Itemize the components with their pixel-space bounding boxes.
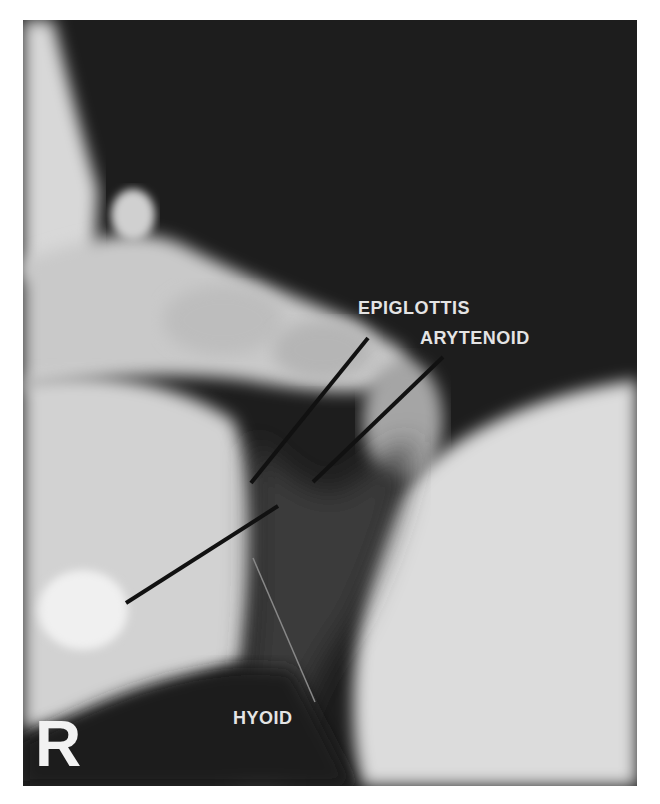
radiograph-frame: EPIGLOTTIS ARYTENOID HYOID R [23, 20, 637, 786]
side-marker: R [35, 712, 81, 776]
arytenoid-label: ARYTENOID [420, 328, 530, 349]
epiglottis-label: EPIGLOTTIS [358, 298, 470, 319]
radiograph-image [23, 20, 637, 786]
hyoid-label: HYOID [233, 708, 293, 729]
